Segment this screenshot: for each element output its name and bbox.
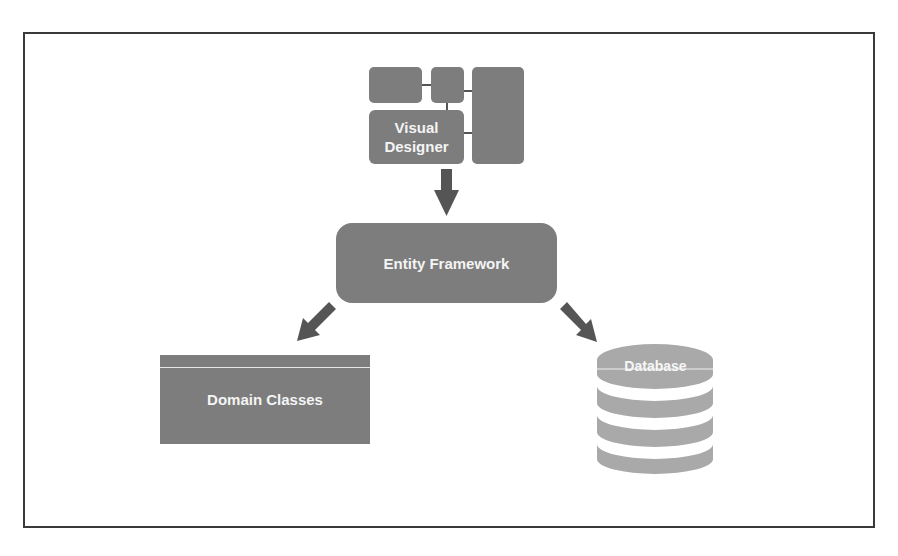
arrow-down-right-icon bbox=[560, 302, 597, 342]
database-label: Database bbox=[597, 358, 714, 374]
arrow-down-left-icon bbox=[297, 302, 336, 341]
arrow-down-icon bbox=[434, 169, 459, 216]
